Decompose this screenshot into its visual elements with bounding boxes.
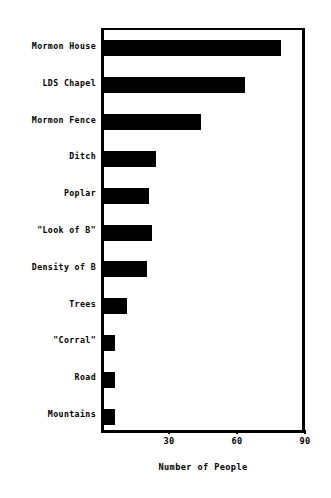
bar	[104, 77, 245, 93]
category-label: LDS Chapel	[4, 79, 96, 88]
bar	[104, 372, 115, 388]
bar	[104, 188, 149, 204]
x-axis-title: Number of People	[101, 462, 305, 473]
bar	[104, 261, 147, 277]
bar	[104, 114, 201, 130]
category-label: Mountains	[4, 410, 96, 419]
category-label: "Look of B"	[4, 226, 96, 235]
bar	[104, 151, 156, 167]
category-label: Poplar	[4, 189, 96, 198]
bar	[104, 409, 115, 425]
plot-area	[101, 28, 305, 433]
bar	[104, 40, 281, 56]
bar	[104, 335, 115, 351]
category-axis-labels: Mormon HouseLDS ChapelMormon FenceDitchP…	[0, 28, 96, 433]
tick-label: 60	[232, 436, 243, 446]
category-label: Road	[4, 373, 96, 382]
bar	[104, 225, 152, 241]
tick-label: 30	[164, 436, 175, 446]
category-label: "Corral"	[4, 336, 96, 345]
category-label: Trees	[4, 300, 96, 309]
category-label: Mormon House	[4, 42, 96, 51]
bar	[104, 298, 127, 314]
bar-chart-figure: Mormon HouseLDS ChapelMormon FenceDitchP…	[0, 0, 331, 498]
tick-label: 90	[300, 436, 311, 446]
tick-mark	[168, 430, 170, 434]
value-axis-ticks: 306090	[101, 430, 305, 460]
bar-series	[104, 30, 302, 430]
category-label: Mormon Fence	[4, 116, 96, 125]
tick-mark	[236, 430, 238, 434]
tick-mark	[304, 430, 306, 434]
category-label: Density of B	[4, 263, 96, 272]
category-label: Ditch	[4, 152, 96, 161]
